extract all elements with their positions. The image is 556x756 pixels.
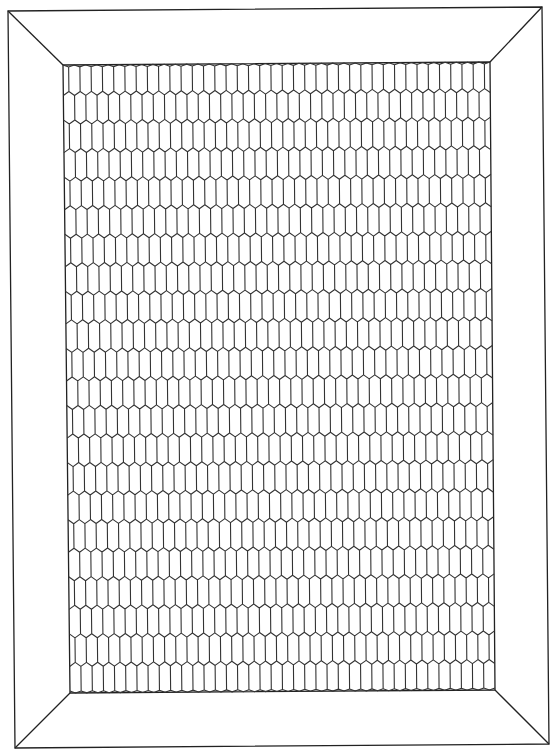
miter-line-bottom-right xyxy=(495,690,549,744)
miter-line-top-right xyxy=(490,7,542,62)
outer-frame-border xyxy=(8,7,549,748)
inner-frame-border xyxy=(63,62,495,693)
inner-frame xyxy=(63,62,495,693)
miter-line-top-left xyxy=(8,11,63,65)
drawing-canvas xyxy=(0,0,556,756)
hexagon-cell-grid xyxy=(63,62,495,693)
frame-miter-lines xyxy=(8,7,549,748)
miter-line-bottom-left xyxy=(15,693,70,748)
outer-frame xyxy=(8,7,549,748)
framed-grid-illustration xyxy=(0,0,556,756)
hexagon-cell-lines xyxy=(63,62,495,693)
